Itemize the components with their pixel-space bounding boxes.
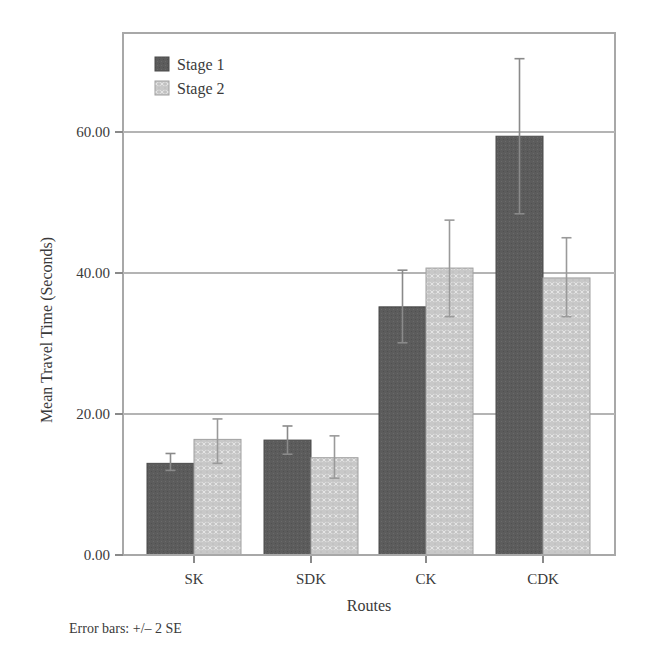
x-tick-label: SK xyxy=(184,571,203,587)
x-tick-label: SDK xyxy=(296,571,326,587)
y-tick-label: 40.00 xyxy=(76,265,110,281)
bar-stage-1-sk xyxy=(147,463,194,555)
y-tick-label: 0.00 xyxy=(84,547,110,563)
y-tick-label: 20.00 xyxy=(76,406,110,422)
x-tick-label: CK xyxy=(416,571,437,587)
y-tick-label: 60.00 xyxy=(76,124,110,140)
legend-swatch-2 xyxy=(155,81,169,95)
y-axis-title: Mean Travel Time (Seconds) xyxy=(38,237,56,423)
error-bar-note: Error bars: +/– 2 SE xyxy=(69,621,182,637)
bar-chart: 0.0020.0040.0060.00 SKSDKCKCDK Stage 1St… xyxy=(0,0,650,664)
x-axis: SKSDKCKCDK xyxy=(123,555,615,587)
bar-stage-1-sdk xyxy=(264,440,311,555)
legend-label-1: Stage 1 xyxy=(177,56,225,74)
x-tick-label: CDK xyxy=(527,571,559,587)
bar-stage-1-ck xyxy=(379,307,426,555)
y-axis: 0.0020.0040.0060.00 xyxy=(76,124,123,563)
legend-swatch-1 xyxy=(155,57,169,71)
x-axis-title: Routes xyxy=(347,597,391,614)
bar-stage-2-cdk xyxy=(543,278,590,555)
legend-label-2: Stage 2 xyxy=(177,80,225,98)
